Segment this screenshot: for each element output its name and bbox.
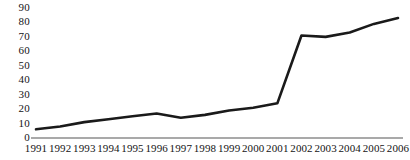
y-tick-label: 90	[4, 2, 30, 13]
plot-area	[31, 4, 403, 140]
y-tick-label: 40	[4, 74, 30, 85]
data-series-line	[36, 18, 398, 129]
y-tick-label: 60	[4, 45, 30, 56]
x-axis: 1991199219931994199519961997199819992000…	[31, 141, 405, 158]
y-tick-label: 50	[4, 60, 30, 71]
plot-svg	[31, 4, 403, 140]
x-tick-label: 2006	[381, 141, 410, 155]
y-tick-label: 10	[4, 118, 30, 129]
line-chart: 0102030405060708090 19911992199319941995…	[0, 0, 410, 160]
y-tick-label: 80	[4, 16, 30, 27]
y-tick-label: 70	[4, 31, 30, 42]
y-axis: 0102030405060708090	[0, 0, 30, 160]
y-tick-label: 30	[4, 89, 30, 100]
y-tick-label: 20	[4, 103, 30, 114]
